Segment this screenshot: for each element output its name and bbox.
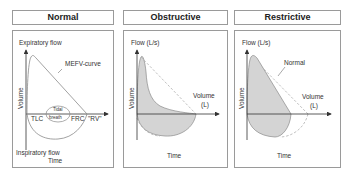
flow-label: Flow (L/s) <box>242 39 271 47</box>
volume-axis-label: Volume <box>238 87 245 109</box>
restrictive-chart: Flow (L/s) Normal Volume (L) Time Volume <box>238 39 331 159</box>
frc-label: FRC <box>71 115 85 122</box>
time-label: Time <box>277 152 292 159</box>
tidal-label: Tidal <box>53 107 63 112</box>
expiratory-flow-label: Expiratory flow <box>19 39 62 47</box>
volume-label: Volume <box>302 93 324 100</box>
normal-label: Normal <box>284 59 306 66</box>
time-label: Time <box>167 152 182 159</box>
flow-label: Flow (L/s) <box>131 39 160 47</box>
normal-chart: Expiratory flow Tidal breath MEFV-curve … <box>16 39 108 164</box>
mefv-curve-label: MEFV-curve <box>65 60 101 67</box>
obstructive-loop <box>137 56 196 136</box>
volume-label: Volume <box>193 92 215 99</box>
breath-label-text: breath <box>49 115 62 120</box>
time-label: Time <box>48 157 63 164</box>
rv-label: "RV" <box>88 115 102 122</box>
tlc-label: TLC <box>31 115 44 122</box>
obstructive-chart: Flow (L/s) Volume (L) Time Volume <box>128 39 219 159</box>
volume-axis-label: Volume <box>128 87 135 109</box>
volume-unit-label: (L) <box>201 101 209 109</box>
volume-unit-label: (L) <box>310 102 318 110</box>
volume-axis-label: Volume <box>17 87 24 109</box>
inspiratory-flow-label: Inspiratory flow <box>16 149 60 157</box>
flow-volume-diagram: Expiratory flow Tidal breath MEFV-curve … <box>0 0 351 176</box>
